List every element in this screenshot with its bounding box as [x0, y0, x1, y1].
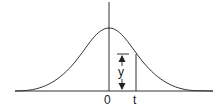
- y-label: y: [118, 65, 124, 79]
- arrow-down-icon: [119, 83, 126, 90]
- arrow-up-icon: [119, 55, 126, 62]
- origin-label: 0: [104, 93, 111, 107]
- normal-curve-diagram: y 0 t: [0, 0, 223, 110]
- bell-curve: [15, 28, 213, 91]
- t-label: t: [133, 93, 137, 107]
